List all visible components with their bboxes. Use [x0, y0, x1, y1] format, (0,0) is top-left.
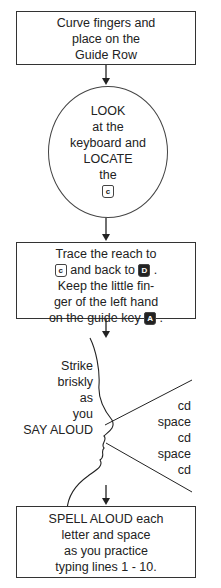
step5-line: letter and space [17, 527, 195, 543]
step3-line: Keep the little fin- [17, 278, 195, 294]
step5-line: typing lines 1 - 10. [17, 559, 195, 575]
step3-text: . [150, 263, 157, 277]
spoken-item: cd [131, 398, 191, 414]
say-line: as [0, 390, 93, 406]
step1-line: Curve fingers and [17, 15, 195, 31]
spoken-sequence: cd space cd space cd [131, 398, 191, 478]
step-spell-aloud: SPELL ALOUD each letter and space as you… [16, 506, 196, 578]
step-trace-reach: Trace the reach to c and back to D . Kee… [16, 242, 196, 319]
say-line: you [0, 406, 93, 422]
step-look-locate: LOOK at the keyboard and LOCATE the c [48, 86, 168, 218]
step1-line: Guide Row [17, 47, 195, 63]
step2-line: the [49, 167, 167, 183]
step2-line: keyboard and [49, 135, 167, 151]
spoken-item: space [131, 414, 191, 430]
spoken-item: cd [131, 462, 191, 478]
spoken-item: cd [131, 430, 191, 446]
strike-say-aloud-text: Strike briskly as you SAY ALOUD [0, 358, 93, 438]
step2-line: LOOK [49, 103, 167, 119]
spoken-item: space [131, 446, 191, 462]
key-a-icon: A [144, 312, 156, 325]
key-d-icon: D [138, 264, 150, 277]
step2-line: LOCATE [49, 151, 167, 167]
step5-line: as you practice [17, 543, 195, 559]
step3-text: on the guide key [49, 311, 144, 325]
step3-text: . [156, 311, 163, 325]
step-curve-fingers: Curve fingers and place on the Guide Row [16, 11, 196, 65]
key-c-icon: c [102, 185, 114, 198]
say-line: Strike [0, 358, 93, 374]
step3-line: ger of the left hand [17, 294, 195, 310]
step3-text: and back to [67, 263, 139, 277]
step1-line: place on the [17, 31, 195, 47]
key-c-icon: c [55, 264, 67, 277]
step3-line: Trace the reach to [17, 246, 195, 262]
step2-line: at the [49, 119, 167, 135]
say-line: SAY ALOUD [0, 422, 93, 438]
step5-line: SPELL ALOUD each [17, 511, 195, 527]
say-line: briskly [0, 374, 93, 390]
